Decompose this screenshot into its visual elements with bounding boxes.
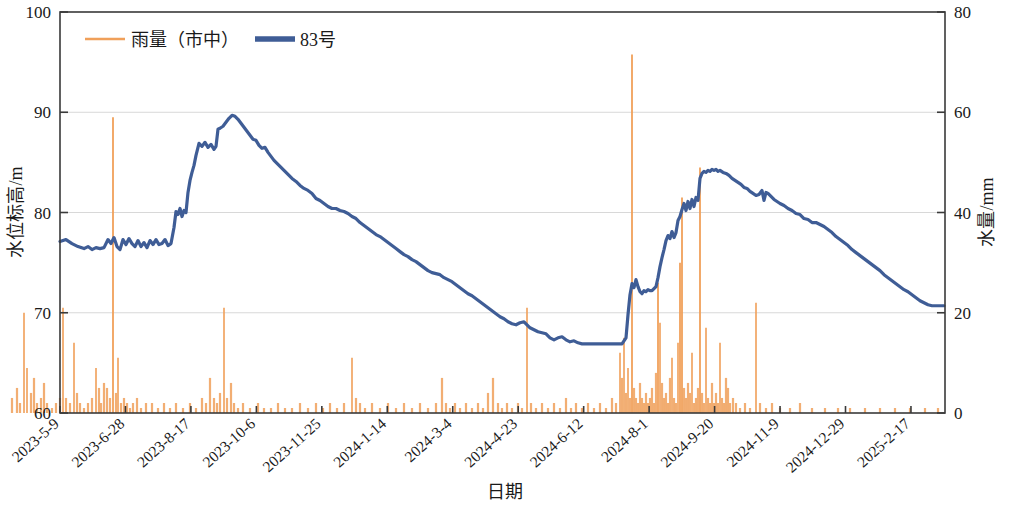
y-tick-label: 100 [26, 3, 52, 22]
y2-tick-label: 80 [954, 3, 971, 22]
right-axis-title: 水量/mm [977, 177, 997, 246]
chart-container: 60708090100 020406080 2023-5-92023-6-282… [0, 0, 1010, 508]
hydrograph-figure: 60708090100 020406080 2023-5-92023-6-282… [0, 0, 1010, 508]
legend-label-rainfall: 雨量（市中） [131, 30, 239, 50]
y2-tick-label: 20 [954, 304, 971, 323]
y2-tick-label: 40 [954, 204, 971, 223]
y-tick-label: 70 [34, 304, 51, 323]
y2-tick-label: 60 [954, 103, 971, 122]
y-tick-label: 80 [34, 204, 51, 223]
left-axis-title: 水位标高/m [6, 166, 26, 257]
x-axis-title: 日期 [487, 482, 523, 502]
y2-tick-label: 0 [954, 404, 963, 423]
y-tick-label: 90 [34, 103, 51, 122]
legend-label-waterlevel: 83号 [300, 30, 336, 50]
